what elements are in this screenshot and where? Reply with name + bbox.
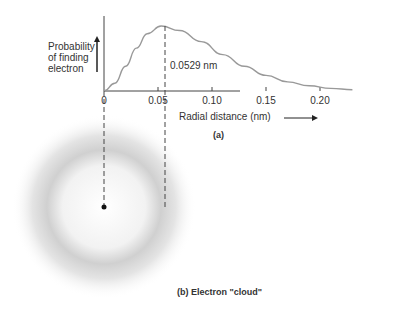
caption-a: (a) xyxy=(213,130,224,140)
x-tick-label: 0 xyxy=(101,95,107,106)
x-tick-label: 0.15 xyxy=(256,95,275,106)
probability-curve xyxy=(104,26,352,91)
peak-annotation: 0.0529 nm xyxy=(170,60,217,71)
x-tick-label: 0.10 xyxy=(202,95,221,106)
y-axis-label: Probability of finding electron xyxy=(48,41,95,74)
x-tick-label: 0.20 xyxy=(310,95,329,106)
x-arrow-head xyxy=(312,115,318,121)
y-arrow-icon xyxy=(94,36,100,72)
caption-b: (b) Electron "cloud" xyxy=(177,287,262,297)
x-tick-label: 0.05 xyxy=(148,95,167,106)
nucleus-dot xyxy=(102,205,107,210)
x-axis-label: Radial distance (nm) xyxy=(179,111,271,122)
x-ticks xyxy=(158,87,320,91)
